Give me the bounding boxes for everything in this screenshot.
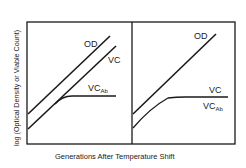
y-axis-label: log (Optical Density or Viable Count) [12, 30, 21, 146]
x-axis-label: Generations After Temperature Shift [55, 152, 175, 161]
left-vcab-label: VCAb [88, 83, 109, 94]
left-od-line [28, 36, 110, 114]
right-od-label: OD [194, 31, 208, 41]
left-od-label: OD [84, 39, 98, 49]
figure-diagram: OD VC VCAb OD VC VCAb log (Optical Densi… [0, 0, 246, 168]
left-panel: OD VC VCAb [28, 36, 121, 129]
right-vcab-label: VCAb [203, 101, 224, 112]
right-vc-label: VC [209, 85, 222, 95]
right-panel: OD VC VCAb [133, 31, 228, 128]
left-vc-label: VC [108, 55, 121, 65]
left-vcab-line [55, 96, 116, 104]
